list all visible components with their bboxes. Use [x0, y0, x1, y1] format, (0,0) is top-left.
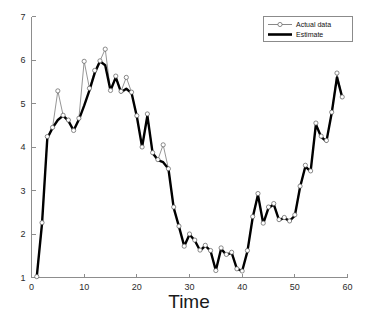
- y-tick-label: 7: [20, 12, 25, 22]
- legend-label-actual-data: Actual data: [296, 21, 331, 28]
- x-tick-label: 20: [132, 282, 142, 292]
- y-tick-label: 4: [20, 142, 25, 152]
- data-point-marker: [172, 205, 176, 209]
- data-point-marker: [266, 205, 270, 209]
- data-point-marker: [77, 116, 81, 120]
- data-point-marker: [193, 238, 197, 242]
- data-point-marker: [187, 232, 191, 236]
- line-chart-plot: 1234567 0102030405060 Actual data Estima…: [0, 0, 367, 316]
- data-point-marker: [324, 138, 328, 142]
- data-point-marker: [203, 243, 207, 247]
- data-point-marker: [166, 167, 170, 171]
- data-point-marker: [272, 201, 276, 205]
- data-point-marker: [145, 112, 149, 116]
- data-point-marker: [245, 248, 249, 252]
- data-point-marker: [66, 118, 70, 122]
- data-point-marker: [177, 224, 181, 228]
- data-point-marker: [319, 134, 323, 138]
- data-point-marker: [330, 110, 334, 114]
- data-point-marker: [282, 215, 286, 219]
- data-point-marker: [50, 125, 54, 129]
- data-point-marker: [287, 219, 291, 223]
- data-point-marker: [151, 151, 155, 155]
- data-point-marker: [303, 163, 307, 167]
- data-point-marker: [224, 252, 228, 256]
- data-point-marker: [309, 169, 313, 173]
- y-tick-label: 2: [20, 229, 25, 239]
- y-tick-label: 3: [20, 186, 25, 196]
- data-point-marker: [198, 248, 202, 252]
- data-point-marker: [230, 250, 234, 254]
- data-point-marker: [314, 121, 318, 125]
- data-point-marker: [182, 244, 186, 248]
- data-point-marker: [87, 86, 91, 90]
- data-point-marker: [135, 114, 139, 118]
- data-point-marker: [56, 89, 60, 93]
- y-tick-label: 6: [20, 55, 25, 65]
- data-point-marker: [119, 89, 123, 93]
- data-point-marker: [261, 221, 265, 225]
- data-point-marker: [208, 248, 212, 252]
- data-point-marker: [235, 267, 239, 271]
- x-axis-title: Time: [168, 291, 210, 312]
- x-tick-label: 50: [290, 282, 300, 292]
- chart-legend[interactable]: Actual data Estimate: [264, 17, 353, 42]
- data-point-marker: [72, 128, 76, 132]
- x-tick-label: 30: [184, 282, 194, 292]
- y-tick-label: 1: [20, 273, 25, 283]
- y-tick-label: 5: [20, 99, 25, 109]
- legend-label-estimate: Estimate: [296, 31, 323, 38]
- data-point-marker: [335, 71, 339, 75]
- data-point-marker: [114, 74, 118, 78]
- data-point-marker: [219, 246, 223, 250]
- data-point-marker: [82, 59, 86, 63]
- data-point-marker: [340, 95, 344, 99]
- data-point-marker: [251, 215, 255, 219]
- data-point-marker: [293, 213, 297, 217]
- data-point-marker: [214, 268, 218, 272]
- data-point-marker: [277, 218, 281, 222]
- data-point-marker: [156, 158, 160, 162]
- data-point-marker: [40, 221, 44, 225]
- data-point-marker: [129, 90, 133, 94]
- data-point-marker: [298, 184, 302, 188]
- data-point-marker: [108, 88, 112, 92]
- data-point-marker: [98, 59, 102, 63]
- data-point-marker: [35, 275, 39, 279]
- x-tick-label: 40: [237, 282, 247, 292]
- x-tick-label: 10: [79, 282, 89, 292]
- data-point-marker: [61, 113, 65, 117]
- data-point-marker: [124, 75, 128, 79]
- legend-marker-actual-data: [278, 22, 282, 26]
- x-tick-label: 60: [342, 282, 352, 292]
- data-point-marker: [103, 47, 107, 51]
- data-point-marker: [161, 143, 165, 147]
- data-point-marker: [240, 269, 244, 273]
- x-tick-label: 0: [29, 282, 34, 292]
- data-point-marker: [45, 134, 49, 138]
- chart-figure: 1234567 0102030405060 Actual data Estima…: [0, 0, 367, 316]
- data-point-marker: [140, 145, 144, 149]
- data-point-marker: [256, 191, 260, 195]
- data-point-marker: [93, 68, 97, 72]
